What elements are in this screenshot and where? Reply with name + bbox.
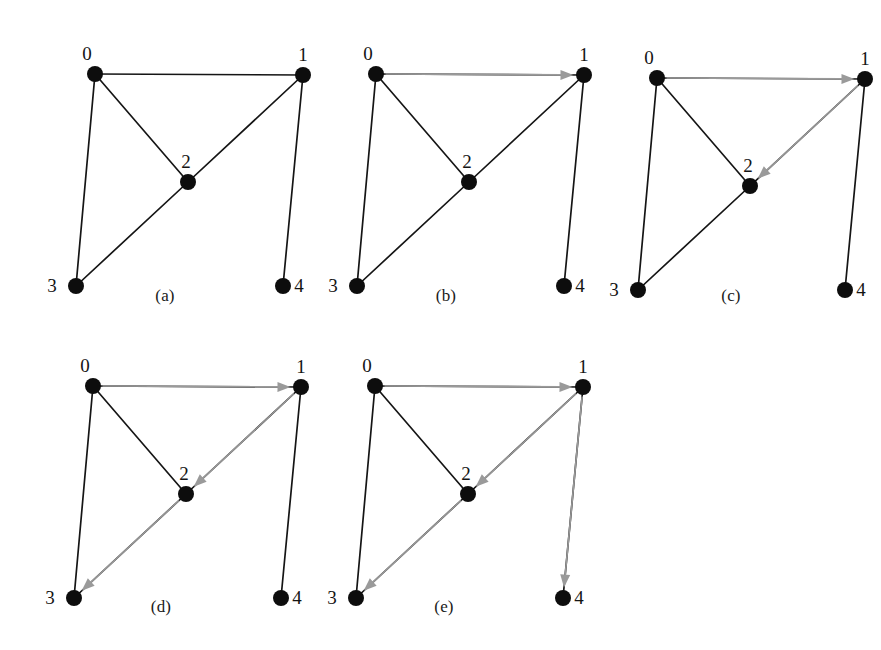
edge-1-2	[188, 75, 303, 182]
arrow-layer	[666, 74, 858, 179]
edge-1-4	[564, 75, 584, 286]
vertex-2[interactable]	[180, 174, 196, 190]
vertex-label-2: 2	[461, 463, 471, 484]
vertex-label-3: 3	[609, 279, 619, 300]
edge-0-3	[638, 78, 657, 290]
edge-1-4	[281, 387, 301, 598]
vertex-4[interactable]	[556, 278, 572, 294]
vertex-label-3: 3	[47, 275, 57, 296]
vertex-1[interactable]	[857, 71, 873, 87]
arrow-layer	[385, 70, 573, 80]
panel-c-canvas: 01234	[582, 24, 881, 324]
panel-c-caption: (c)	[721, 286, 740, 306]
vertex-label-0: 0	[644, 47, 654, 68]
edge-0-2	[95, 74, 188, 182]
vertex-4[interactable]	[273, 590, 289, 606]
traversal-arrow-0-1	[384, 382, 572, 392]
vertex-label-4: 4	[856, 279, 866, 300]
vertex-4[interactable]	[837, 282, 853, 298]
vertex-label-4: 4	[574, 587, 584, 608]
vertex-label-1: 1	[578, 356, 588, 377]
arrow-shaft	[766, 85, 858, 171]
panel-a-caption: (a)	[155, 286, 174, 306]
arrow-head	[841, 74, 854, 84]
vertex-0[interactable]	[367, 378, 383, 394]
vertex-3[interactable]	[348, 590, 364, 606]
panel-b: 01234	[301, 20, 611, 320]
edge-0-1	[95, 74, 303, 75]
vertex-0[interactable]	[368, 66, 384, 82]
traversal-arrow-1-2	[194, 393, 294, 486]
arrow-head	[560, 70, 573, 80]
vertex-3[interactable]	[68, 278, 84, 294]
vertex-2[interactable]	[461, 174, 477, 190]
arrow-shaft	[385, 74, 562, 75]
panel-a-canvas: 01234	[20, 20, 330, 320]
arrow-head	[559, 382, 572, 392]
edge-0-3	[356, 386, 375, 598]
arrow-head	[560, 574, 570, 587]
arrow-shaft	[102, 386, 279, 387]
edge-0-2	[657, 78, 750, 186]
edge-2-3	[76, 182, 188, 286]
edge-0-3	[74, 386, 93, 598]
traversal-arrow-0-1	[102, 382, 290, 392]
traversal-arrow-0-1	[385, 70, 573, 80]
panel-e: 01234	[300, 332, 610, 632]
arrow-head	[277, 382, 290, 392]
vertex-3[interactable]	[66, 590, 82, 606]
vertex-2[interactable]	[742, 178, 758, 194]
arrow-shaft	[484, 393, 576, 479]
vertex-4[interactable]	[555, 590, 571, 606]
vertex-label-3: 3	[45, 587, 55, 608]
panel-b-caption: (b)	[436, 286, 456, 306]
panel-d-caption: (d)	[151, 597, 171, 617]
traversal-arrow-2-3	[364, 500, 461, 590]
vertex-label-2: 2	[181, 151, 191, 172]
edge-1-4	[283, 75, 303, 286]
arrow-shaft	[90, 500, 179, 583]
arrow-layer	[364, 382, 582, 591]
vertex-label-0: 0	[82, 43, 92, 64]
vertex-0[interactable]	[87, 66, 103, 82]
vertex-1[interactable]	[575, 379, 591, 395]
vertex-label-3: 3	[327, 587, 337, 608]
edge-1-4	[845, 79, 865, 290]
arrow-shaft	[565, 396, 582, 576]
vertex-label-1: 1	[860, 48, 870, 69]
traversal-arrow-1-4	[560, 396, 582, 587]
edge-0-3	[357, 74, 376, 286]
vertex-0[interactable]	[85, 378, 101, 394]
vertex-2[interactable]	[460, 486, 476, 502]
edge-0-2	[376, 74, 469, 182]
arrow-shaft	[202, 393, 294, 479]
vertex-3[interactable]	[630, 282, 646, 298]
edge-0-2	[93, 386, 186, 494]
panel-a: 01234	[20, 20, 330, 320]
panel-b-canvas: 01234	[301, 20, 611, 320]
traversal-arrow-2-3	[82, 500, 179, 590]
traversal-arrow-0-1	[666, 74, 854, 84]
panel-e-caption: (e)	[434, 597, 453, 617]
vertex-label-2: 2	[462, 151, 472, 172]
arrow-shaft	[666, 78, 843, 79]
vertex-label-2: 2	[743, 155, 753, 176]
edge-2-3	[638, 186, 750, 290]
arrow-shaft	[372, 500, 461, 583]
traversal-arrow-1-2	[758, 85, 858, 178]
vertex-label-3: 3	[328, 275, 338, 296]
edge-2-3	[357, 182, 469, 286]
edge-0-2	[375, 386, 468, 494]
vertex-label-0: 0	[362, 355, 372, 376]
vertex-label-2: 2	[179, 463, 189, 484]
edge-0-3	[76, 74, 95, 286]
vertex-4[interactable]	[275, 278, 291, 294]
vertex-label-0: 0	[363, 43, 373, 64]
vertex-0[interactable]	[649, 70, 665, 86]
vertex-3[interactable]	[349, 278, 365, 294]
vertex-2[interactable]	[178, 486, 194, 502]
traversal-arrow-1-2	[476, 393, 576, 486]
arrow-shaft	[384, 386, 561, 387]
vertex-label-0: 0	[80, 355, 90, 376]
panel-d-canvas: 01234	[18, 332, 328, 632]
